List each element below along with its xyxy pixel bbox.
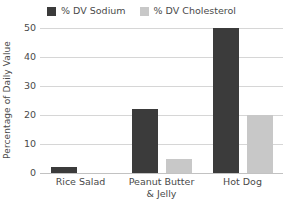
bar-group	[121, 28, 202, 173]
y-tick-label-30: 30	[24, 81, 36, 91]
y-tick-label-40: 40	[24, 52, 36, 62]
y-tick-label-20: 20	[24, 110, 36, 120]
x-axis-label: Peanut Butter & Jelly	[121, 176, 202, 200]
bars-layer	[40, 28, 283, 173]
bar[interactable]	[166, 159, 192, 174]
legend-swatch-sodium-icon	[47, 7, 56, 16]
plot-area	[40, 28, 283, 173]
bar-group	[202, 28, 283, 173]
plot-wrapper: 01020304050	[14, 28, 283, 188]
x-axis-label: Hot Dog	[202, 176, 283, 200]
y-tick-label-0: 0	[30, 168, 36, 178]
legend-label-cholesterol: % DV Cholesterol	[154, 6, 236, 16]
y-tick-label-50: 50	[24, 23, 36, 33]
gridline-0	[40, 173, 283, 174]
legend-item-sodium[interactable]: % DV Sodium	[47, 6, 126, 16]
bar-group	[40, 28, 121, 173]
legend-item-cholesterol[interactable]: % DV Cholesterol	[140, 6, 236, 16]
bar[interactable]	[51, 167, 77, 173]
legend-label-sodium: % DV Sodium	[61, 6, 126, 16]
bar[interactable]	[132, 109, 158, 173]
y-tick-label-10: 10	[24, 139, 36, 149]
bar-chart: % DV Sodium % DV Cholesterol Percentage …	[0, 0, 283, 214]
y-axis-ticks: 01020304050	[14, 28, 40, 173]
chart-legend: % DV Sodium % DV Cholesterol	[0, 6, 283, 16]
x-axis-labels: Rice SaladPeanut Butter & JellyHot Dog	[40, 176, 283, 200]
x-axis-label: Rice Salad	[40, 176, 121, 200]
legend-swatch-cholesterol-icon	[140, 7, 149, 16]
y-axis-title: Percentage of Daily Value	[0, 28, 14, 172]
bar[interactable]	[213, 28, 239, 173]
y-axis-title-text: Percentage of Daily Value	[2, 41, 12, 159]
bar[interactable]	[247, 115, 273, 173]
